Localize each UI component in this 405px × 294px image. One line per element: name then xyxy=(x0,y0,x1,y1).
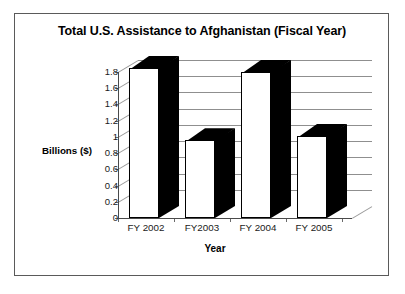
y-tick-label: 1.6 xyxy=(92,83,118,93)
y-tick-label: 0 xyxy=(92,213,118,223)
x-axis-line xyxy=(118,218,352,219)
bar-side-face xyxy=(159,56,179,218)
bar-front-face xyxy=(185,140,215,218)
plot-area: 00.20.40.60.811.21.41.61.8 FY 2002FY2003… xyxy=(0,0,405,294)
bar-front-face xyxy=(241,72,271,218)
x-axis-title: Year xyxy=(120,243,310,254)
bar-side-face xyxy=(271,60,291,218)
x-tick-mark xyxy=(342,219,343,222)
y-tick-label: 0.2 xyxy=(92,197,118,207)
y-tick-label: 1.4 xyxy=(92,99,118,109)
chart-figure: Total U.S. Assistance to Afghanistan (Fi… xyxy=(0,0,405,294)
bar-side-face xyxy=(215,128,235,218)
x-tick-label: FY 2002 xyxy=(118,222,174,233)
bar-side-face xyxy=(327,124,347,218)
bar-1 xyxy=(129,56,179,218)
bar-2 xyxy=(185,128,235,218)
y-axis-line xyxy=(118,72,119,219)
x-tick-label: FY 2005 xyxy=(286,222,342,233)
y-axis-title: Billions ($) xyxy=(26,145,92,156)
bar-front-face xyxy=(129,68,159,218)
x-tick-label: FY 2004 xyxy=(230,222,286,233)
y-tick-label: 1 xyxy=(92,132,118,142)
y-tick-label: 0.6 xyxy=(92,164,118,174)
y-tick-label: 0.4 xyxy=(92,181,118,191)
bar-front-face xyxy=(297,136,327,218)
bar-4 xyxy=(297,124,347,218)
y-axis-tick-labels: 00.20.40.60.811.21.41.61.8 xyxy=(92,0,118,294)
x-tick-label: FY2003 xyxy=(174,222,230,233)
bar-3 xyxy=(241,60,291,218)
y-tick-label: 1.8 xyxy=(92,67,118,77)
floor-depth-edge xyxy=(352,206,373,219)
y-tick-label: 1.2 xyxy=(92,116,118,126)
y-tick-label: 0.8 xyxy=(92,148,118,158)
